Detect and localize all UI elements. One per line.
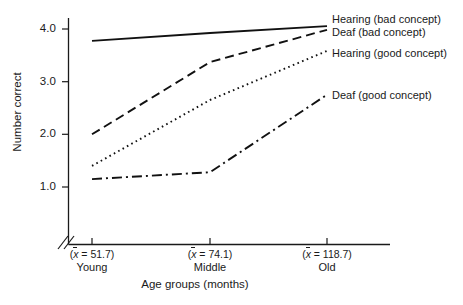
x-bar-symbol: x [306,248,311,261]
x-axis-title: Age groups (months) [0,278,390,290]
x-group-name-young: Young [32,261,152,274]
chart-figure: 4.0 3.0 2.0 1.0 (x = 51.7) Young (x = 74… [0,0,463,305]
series-line-hearing-bad-concept [92,26,327,41]
series-label-hearing-good-concept: Hearing (good concept) [332,47,447,60]
x-bar-symbol: x [73,248,78,261]
x-tick-label-old: (x = 118.7) Old [267,248,387,274]
x-mean-value-middle: = 74.1) [196,248,232,260]
y-tick-label-1: 1.0 [12,180,56,192]
series-label-deaf-good-concept: Deaf (good concept) [332,89,432,102]
x-tick-label-middle: (x = 74.1) Middle [150,248,270,274]
x-tick-mean-old: (x = 118.7) [267,248,387,261]
series-line-deaf-good-concept [92,95,327,179]
y-axis-title: Number correct [11,52,23,172]
x-mean-value-young: = 51.7) [78,248,114,260]
x-tick-label-young: (x = 51.7) Young [32,248,152,274]
series-label-deaf-bad-concept: Deaf (bad concept) [332,26,426,39]
x-group-name-old: Old [267,261,387,274]
x-tick-mean-young: (x = 51.7) [32,248,152,261]
x-group-name-middle: Middle [150,261,270,274]
x-tick-mean-middle: (x = 74.1) [150,248,270,261]
series-label-hearing-bad-concept: Hearing (bad concept) [332,13,441,26]
x-bar-symbol: x [191,248,196,261]
series-line-hearing-good-concept [92,51,327,166]
y-tick-label-4: 4.0 [12,22,56,34]
x-mean-value-old: = 118.7) [311,248,352,260]
